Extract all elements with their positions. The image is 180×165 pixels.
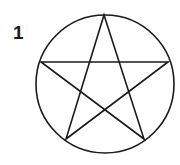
outer-circle <box>36 15 174 153</box>
pentagram-diagram <box>0 0 180 165</box>
pentagram-star <box>41 15 168 139</box>
